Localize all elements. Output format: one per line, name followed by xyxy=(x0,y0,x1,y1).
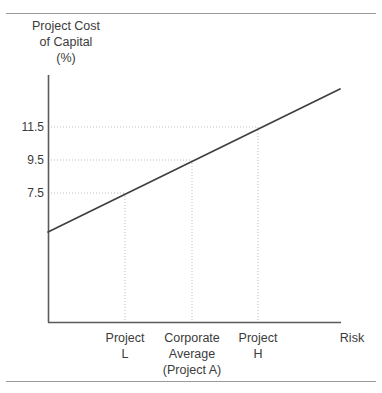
y-axis-title: Project Cost of Capital (%) xyxy=(14,18,118,66)
y-tick-label-9-5: 9.5 xyxy=(4,154,44,166)
security-market-line xyxy=(48,89,340,232)
y-tick-label-7-5: 7.5 xyxy=(4,187,44,199)
y-tick-label-11-5: 11.5 xyxy=(4,121,44,133)
vertical-guide-lines xyxy=(125,127,258,322)
horizontal-guide-lines xyxy=(48,127,258,193)
figure-container: Project Cost of Capital (%) 11.5 9.5 7.5… xyxy=(0,0,382,393)
x-axis-title-risk: Risk xyxy=(292,330,382,346)
